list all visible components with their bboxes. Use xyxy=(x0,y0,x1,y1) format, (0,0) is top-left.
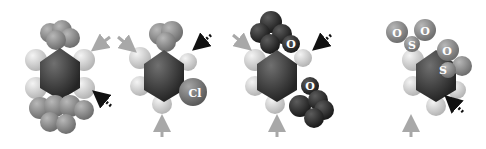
molecule-1 xyxy=(25,20,95,134)
oxygen-label-4: O xyxy=(420,25,430,38)
sulfur-label-1: S xyxy=(408,39,416,52)
dotted-arrow-4 xyxy=(451,101,463,112)
solid-arrow-4 xyxy=(233,35,245,45)
oxygen-label-3: O xyxy=(392,27,402,40)
dotted-arrow-3 xyxy=(319,35,331,45)
chlorine-label: Cl xyxy=(189,87,202,100)
solid-arrow-1 xyxy=(98,37,110,46)
solid-arrow-2 xyxy=(118,37,130,47)
oxygen-label-5: O xyxy=(442,45,452,58)
molecule-3: O O xyxy=(244,11,334,128)
dotted-arrow-2 xyxy=(199,35,211,45)
dotted-arrow-1 xyxy=(99,96,111,106)
sulfur-label-2: S xyxy=(439,64,447,77)
molecule-4: O O S O S xyxy=(386,19,472,116)
oxygen-label-2: O xyxy=(305,80,315,93)
figure-canvas: Cl O O O O S O xyxy=(0,0,486,149)
molecule-2: Cl xyxy=(129,21,207,114)
oxygen-label-1: O xyxy=(286,38,296,51)
